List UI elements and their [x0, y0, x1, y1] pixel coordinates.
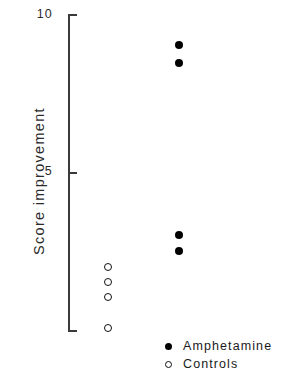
- legend-item-amphetamine: Amphetamine: [165, 337, 272, 355]
- data-point-controls-2: [104, 293, 112, 301]
- chart-legend: Amphetamine Controls: [165, 337, 272, 373]
- data-point-controls-0: [104, 263, 112, 271]
- data-point-amphetamine-0: [175, 41, 183, 49]
- data-point-amphetamine-3: [175, 247, 183, 255]
- data-point-amphetamine-1: [175, 59, 183, 67]
- scatter-chart-figure: 10 5 Score improvement Amphetamine Contr…: [0, 0, 285, 376]
- y-axis-tick-5: [68, 172, 77, 174]
- y-axis-title: Score improvement: [31, 81, 47, 281]
- legend-label-controls: Controls: [183, 357, 238, 371]
- legend-label-amphetamine: Amphetamine: [183, 339, 272, 353]
- data-point-amphetamine-2: [175, 231, 183, 239]
- y-axis-tick-bottom: [68, 330, 77, 332]
- y-axis-tick-label-10: 10: [13, 7, 53, 21]
- filled-circle-icon: [165, 343, 172, 350]
- y-axis-tick-10: [68, 14, 77, 16]
- data-point-controls-3: [104, 324, 112, 332]
- data-point-controls-1: [104, 278, 112, 286]
- open-circle-icon: [165, 361, 172, 368]
- legend-item-controls: Controls: [165, 355, 272, 373]
